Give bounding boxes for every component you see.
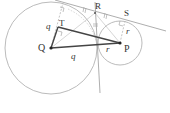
label-t: T xyxy=(59,18,65,28)
label-p: P xyxy=(124,43,130,54)
label-s: S xyxy=(124,8,129,18)
tangent-line xyxy=(55,0,166,31)
right-angle-mark-t xyxy=(58,31,62,36)
segment-q-p xyxy=(51,43,120,48)
right-angle-mark-s xyxy=(119,21,123,26)
point-q xyxy=(49,46,52,49)
point-r xyxy=(94,12,96,14)
label-r-right: r xyxy=(126,26,130,36)
label-r: R xyxy=(95,1,101,11)
right-angle-mark-top xyxy=(60,7,64,12)
label-q-left: q xyxy=(46,21,51,31)
tangent-circles-diagram: Q P R S T q q r r xyxy=(0,0,170,113)
label-q-bottom: q xyxy=(71,51,76,61)
point-p xyxy=(118,41,121,44)
label-q: Q xyxy=(38,42,46,53)
label-r-bottom: r xyxy=(106,44,110,54)
radius-p-to-s xyxy=(120,21,125,43)
